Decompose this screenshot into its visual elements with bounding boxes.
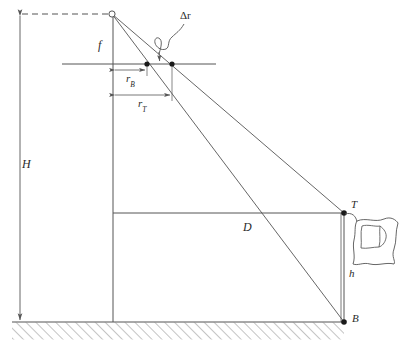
label-radial-distance-top: rT — [138, 98, 146, 112]
diagram-canvas — [0, 0, 404, 349]
label-radial-top-subscript: T — [142, 105, 146, 114]
flag-graphic — [345, 213, 398, 264]
label-radial-base-subscript: B — [130, 80, 135, 89]
object-base-marker — [341, 319, 347, 325]
ray-to-object-top — [112, 14, 344, 213]
label-object-top: T — [351, 199, 357, 210]
perspective-center-marker — [109, 11, 115, 17]
label-radial-distance-base: rB — [126, 73, 135, 87]
label-object-height: h — [349, 268, 355, 279]
ray-to-object-base — [112, 14, 344, 322]
object-top-marker — [341, 210, 347, 216]
label-object-base: B — [352, 313, 359, 324]
delta-r-leader — [155, 24, 184, 61]
relief-displacement-figure: H f rB rT Δr D T B h — [0, 0, 404, 349]
label-ground-distance: D — [243, 221, 252, 233]
label-relief-displacement: Δr — [180, 10, 191, 21]
image-point-top-marker — [169, 61, 174, 66]
image-point-base-marker — [144, 61, 149, 66]
label-focal-length: f — [98, 39, 101, 51]
label-flying-height: H — [22, 158, 31, 170]
ground-hatching — [12, 323, 344, 340]
